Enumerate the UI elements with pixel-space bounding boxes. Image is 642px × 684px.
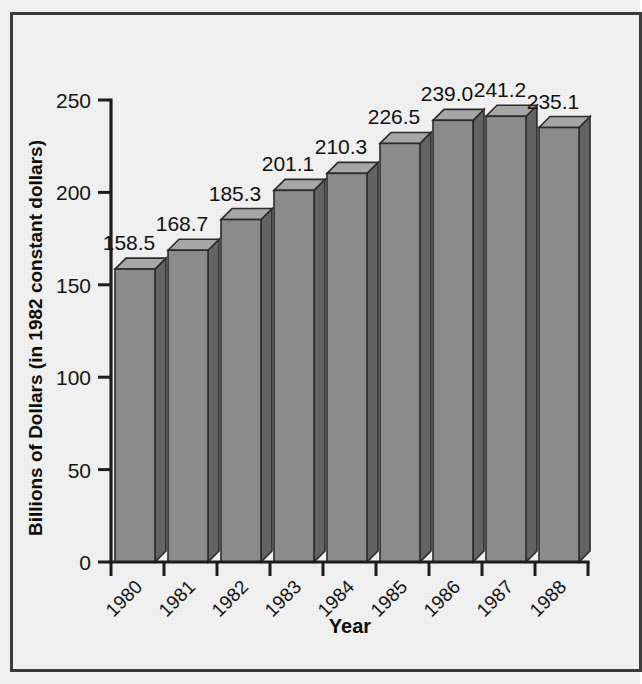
bar-1980 <box>115 258 166 562</box>
x-tick-label-1980: 1980 <box>102 576 147 621</box>
value-label-1987: 241.2 <box>474 78 527 101</box>
bar-front-face <box>327 173 367 562</box>
value-label-1982: 185.3 <box>209 182 262 205</box>
bar-side-face <box>155 258 166 562</box>
x-tick-label-1986: 1986 <box>420 576 465 621</box>
bars-layer <box>115 105 590 562</box>
bar-front-face <box>486 116 526 562</box>
bar-1985 <box>380 132 431 562</box>
x-tick-label-1983: 1983 <box>261 576 306 621</box>
y-axis-ticks: 050100150200250 <box>56 89 111 574</box>
x-tick-label-1981: 1981 <box>155 576 200 621</box>
x-tick-label-1984: 1984 <box>314 576 359 621</box>
bar-1981 <box>168 239 219 562</box>
x-axis-ticks: 198019811982198319841985198619871988 <box>102 562 588 621</box>
y-tick-label-100: 100 <box>56 366 91 389</box>
bar-side-face <box>579 117 590 562</box>
x-tick-label-1985: 1985 <box>367 576 412 621</box>
bar-1984 <box>327 162 378 562</box>
x-tick-label-1987: 1987 <box>473 576 518 621</box>
bar-front-face <box>221 220 261 562</box>
bar-front-face <box>380 143 420 562</box>
y-tick-label-250: 250 <box>56 89 91 112</box>
value-label-1988: 235.1 <box>527 90 580 113</box>
y-tick-label-50: 50 <box>68 459 91 482</box>
bar-1983 <box>274 179 325 562</box>
bar-front-face <box>115 269 155 562</box>
bar-side-face <box>367 162 378 562</box>
value-label-1981: 168.7 <box>156 212 209 235</box>
y-tick-label-0: 0 <box>79 551 91 574</box>
bar-side-face <box>261 209 272 562</box>
bar-front-face <box>539 128 579 562</box>
bar-side-face <box>473 109 484 562</box>
bar-side-face <box>420 132 431 562</box>
y-tick-label-200: 200 <box>56 181 91 204</box>
value-label-1986: 239.0 <box>421 82 474 105</box>
x-tick-label-1988: 1988 <box>526 576 571 621</box>
bar-1987 <box>486 105 537 562</box>
y-tick-label-150: 150 <box>56 274 91 297</box>
bar-front-face <box>274 190 314 562</box>
bar-side-face <box>526 105 537 562</box>
x-tick-label-1982: 1982 <box>208 576 253 621</box>
bar-1986 <box>433 109 484 562</box>
bar-1982 <box>221 209 272 562</box>
value-label-1983: 201.1 <box>262 152 315 175</box>
value-label-1980: 158.5 <box>103 231 156 254</box>
bar-side-face <box>314 179 325 562</box>
bar-front-face <box>168 250 208 562</box>
value-label-1984: 210.3 <box>315 135 368 158</box>
bar-front-face <box>433 120 473 562</box>
y-axis-title: Billions of Dollars (in 1982 constant do… <box>25 140 46 536</box>
value-label-1985: 226.5 <box>368 105 421 128</box>
bar-1988 <box>539 117 590 562</box>
x-axis-title: Year <box>329 615 371 637</box>
bar-side-face <box>208 239 219 562</box>
